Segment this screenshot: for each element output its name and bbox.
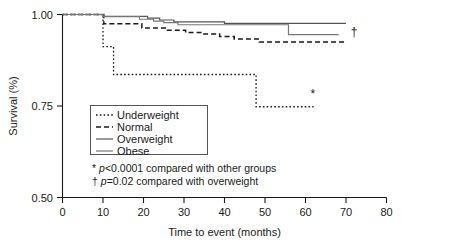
- x-tick-label-70: 70: [340, 206, 352, 218]
- legend-item-overweight[interactable]: Overweight: [96, 133, 173, 145]
- x-tick-label-80: 80: [380, 206, 392, 218]
- y-axis: 1.00 0.75 0.50 Survival (%): [7, 9, 63, 204]
- x-tick-label-50: 50: [259, 206, 271, 218]
- curve-overweight: [63, 15, 347, 24]
- x-tick-label-20: 20: [137, 206, 149, 218]
- y-tick-label-050: 0.50: [32, 192, 53, 204]
- footnote-asterisk: *p<0.0001 compared with other groups: [92, 162, 276, 174]
- y-tick-label-100: 1.00: [32, 9, 53, 21]
- x-axis: 0 10 20 30 40 50 60 70 80 Time to event …: [59, 198, 392, 239]
- asterisk-marker: *: [310, 87, 315, 101]
- x-axis-title: Time to event (months): [168, 226, 281, 238]
- footnote-asterisk-symbol: *: [92, 162, 96, 174]
- legend-label-normal: Normal: [117, 121, 152, 133]
- y-tick-label-075: 0.75: [32, 100, 53, 112]
- footnote-asterisk-relation: <0.0001: [105, 162, 143, 174]
- legend-label-underweight: Underweight: [117, 109, 179, 121]
- legend: Underweight Normal Overweight Obese: [91, 106, 208, 158]
- footnote-asterisk-text: compared with other groups: [143, 162, 276, 174]
- x-tick-label-30: 30: [178, 206, 190, 218]
- legend-label-overweight: Overweight: [117, 133, 173, 145]
- x-tick-label-60: 60: [299, 206, 311, 218]
- footnote-dagger-relation: =0.02: [107, 175, 134, 187]
- footnote-dagger-text: compared with overweight: [133, 175, 258, 187]
- kaplan-meier-survival-chart: 1.00 0.75 0.50 Survival (%) 0 10 20 30 4…: [0, 0, 449, 248]
- x-tick-label-40: 40: [218, 206, 230, 218]
- legend-item-normal[interactable]: Normal: [96, 121, 152, 133]
- curve-underweight: [63, 15, 314, 107]
- y-axis-title: Survival (%): [7, 76, 19, 135]
- x-tick-label-0: 0: [59, 206, 65, 218]
- footnote-dagger: †p=0.02 compared with overweight: [92, 175, 258, 187]
- x-tick-label-10: 10: [97, 206, 109, 218]
- chart-canvas: 1.00 0.75 0.50 Survival (%) 0 10 20 30 4…: [0, 0, 449, 248]
- legend-item-underweight[interactable]: Underweight: [96, 109, 179, 121]
- plot-annotations: * †: [310, 25, 357, 101]
- survival-curves: [63, 15, 347, 107]
- legend-item-obese[interactable]: Obese: [96, 145, 149, 157]
- footnotes: *p<0.0001 compared with other groups †p=…: [92, 162, 276, 187]
- curve-normal: [63, 15, 347, 42]
- legend-label-obese: Obese: [117, 145, 149, 157]
- dagger-marker: †: [351, 25, 358, 39]
- footnote-dagger-symbol: †: [92, 175, 98, 187]
